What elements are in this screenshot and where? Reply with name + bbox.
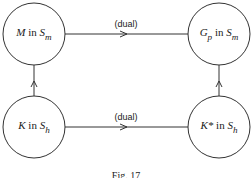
- edge-label-top: (dual): [114, 19, 137, 29]
- node-gp-label: Gp in Sm: [200, 26, 239, 41]
- node-m-label: M in Sm: [16, 26, 51, 41]
- node-k-label: K in Sh: [18, 119, 49, 134]
- edge-label-bottom: (dual): [114, 112, 137, 122]
- figure-caption: Fig. 17: [112, 170, 140, 178]
- node-kstar-label: K* in Sh: [201, 119, 238, 134]
